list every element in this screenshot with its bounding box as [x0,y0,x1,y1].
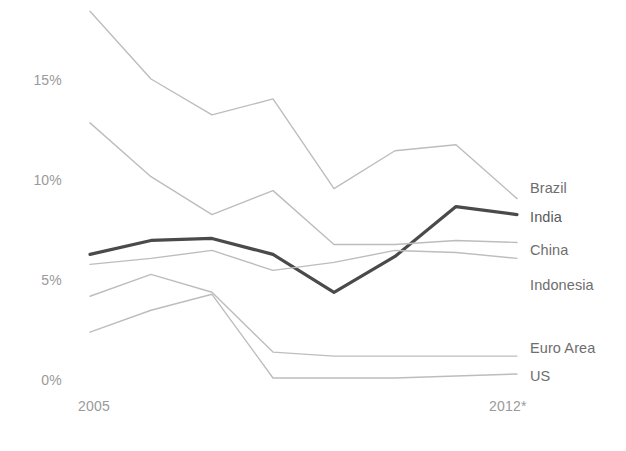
x-axis-tick-end: 2012* [489,398,527,414]
y-axis-tick-0: 0% [8,372,62,388]
series-label-india: India [530,209,562,225]
y-axis-tick-10: 10% [8,172,62,188]
series-line-india [90,207,517,293]
series-line-us [90,294,517,378]
series-line-brazil [90,11,517,198]
series-label-euro-area: Euro Area [530,340,595,356]
series-label-indonesia: Indonesia [530,277,594,293]
series-line-euro-area [90,274,517,356]
series-line-china [90,123,517,245]
series-label-china: China [530,242,568,258]
y-axis-tick-15: 15% [8,72,62,88]
series-group [90,11,517,378]
y-axis-tick-5: 5% [8,272,62,288]
series-label-brazil: Brazil [530,180,567,196]
series-line-indonesia [90,250,517,270]
series-label-us: US [530,368,550,384]
x-axis-tick-start: 2005 [78,398,110,414]
line-chart: 15% 10% 5% 0% 2005 2012* Brazil India Ch… [0,0,626,451]
